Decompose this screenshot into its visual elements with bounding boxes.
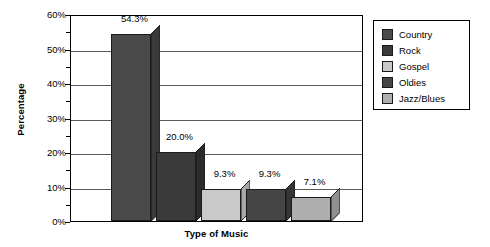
legend-swatch (382, 61, 393, 72)
bar-front-face (246, 189, 286, 221)
legend-label: Rock (399, 45, 421, 56)
bar-side-face (331, 188, 340, 221)
y-axis-label: 50% (26, 44, 66, 55)
legend-swatch (382, 45, 393, 56)
legend-swatch (382, 77, 393, 88)
y-axis-label: 10% (26, 182, 66, 193)
bar-oldies[interactable] (246, 180, 286, 221)
bar-rock[interactable] (156, 143, 196, 221)
bar-front-face (291, 197, 331, 221)
bar-value-label: 20.0% (149, 131, 210, 142)
bar-value-label: 7.1% (284, 176, 345, 187)
plot-area (70, 15, 363, 222)
legend-item-jazz-blues[interactable]: Jazz/Blues (382, 91, 469, 106)
bar-front-face (156, 152, 196, 221)
bar-gospel[interactable] (201, 180, 241, 221)
legend-item-country[interactable]: Country (382, 27, 469, 42)
y-axis-label: 40% (26, 78, 66, 89)
bar-jazz-blues[interactable] (291, 188, 331, 221)
legend-swatch (382, 93, 393, 104)
bar-chart: Percentage 0%10%20%30%40%50%60% 54.3%20.… (0, 0, 490, 247)
x-axis-title: Type of Music (70, 228, 363, 239)
y-axis-label: 0% (26, 216, 66, 227)
y-axis-title: Percentage (15, 58, 26, 162)
legend-item-gospel[interactable]: Gospel (382, 59, 469, 74)
legend-label: Jazz/Blues (399, 93, 445, 104)
legend-swatch (382, 29, 393, 40)
bar-country[interactable] (111, 25, 151, 221)
legend-label: Oldies (399, 77, 426, 88)
chart-legend: CountryRockGospelOldiesJazz/Blues (373, 20, 470, 110)
legend-item-rock[interactable]: Rock (382, 43, 469, 58)
legend-label: Country (399, 29, 432, 40)
y-axis-label: 30% (26, 113, 66, 124)
legend-item-oldies[interactable]: Oldies (382, 75, 469, 90)
legend-label: Gospel (399, 61, 429, 72)
bar-value-label: 54.3% (104, 13, 165, 24)
y-axis-label: 20% (26, 147, 66, 158)
bar-front-face (111, 34, 151, 221)
bar-front-face (201, 189, 241, 221)
y-axis-label: 60% (26, 9, 66, 20)
